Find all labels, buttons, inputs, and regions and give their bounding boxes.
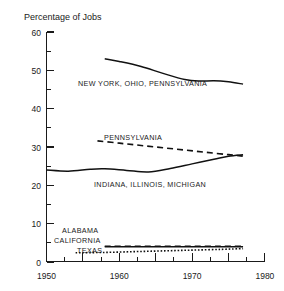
- x-tick-label-1980: 1980: [255, 271, 274, 281]
- series-label-california: CALIFORNIA: [54, 236, 101, 245]
- y-tick-label-10: 10: [32, 219, 42, 229]
- y-tick-label-30: 30: [32, 143, 42, 153]
- x-tick-label-1960: 1960: [110, 271, 129, 281]
- y-tick-label-60: 60: [32, 28, 42, 38]
- y-tick-label-20: 20: [32, 181, 42, 191]
- y-axis-major-ticks: [47, 32, 55, 262]
- y-tick-label-50: 50: [32, 66, 42, 76]
- y-tick-label-40: 40: [32, 104, 42, 114]
- x-tick-label-1950: 1950: [37, 271, 56, 281]
- series-label-indiana-illinois-michigan: INDIANA, ILLINOIS, MICHIGAN: [94, 180, 206, 189]
- series-label-texas: TEXAS: [77, 246, 102, 255]
- chart-title: Percentage of Jobs: [24, 12, 102, 22]
- y-tick-label-0: 0: [36, 258, 41, 268]
- series-label-alabama: ALABAMA: [62, 226, 98, 235]
- line-chart-svg: 60 50 40 30 20 10 0 1950 1960 1970 1980 …: [0, 0, 284, 291]
- series-line-indiana-illinois-michigan: [47, 155, 244, 172]
- series-label-pennsylvania: PENNSYLVANIA: [104, 133, 162, 142]
- x-tick-label-1970: 1970: [183, 271, 202, 281]
- series-line-pennsylvania: [97, 141, 243, 156]
- chart-figure: 60 50 40 30 20 10 0 1950 1960 1970 1980 …: [0, 0, 284, 291]
- series-label-new-york-ohio-pennsylvania: NEW YORK, OHIO, PENNSYLVANIA: [78, 79, 207, 88]
